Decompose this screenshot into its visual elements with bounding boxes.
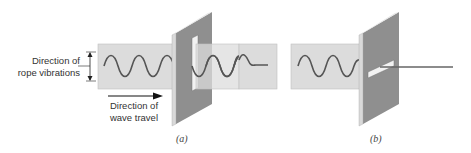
vibration-arrow-head-down	[88, 76, 93, 81]
wave-band-a-right-ext	[239, 44, 277, 89]
wave-band-a-left	[98, 44, 176, 89]
slit-plate-b-edge	[359, 33, 363, 126]
wave-travel-label: Direction of wave travel	[104, 100, 164, 124]
vibration-arrow-head-up	[88, 52, 93, 57]
rope-vibrations-line2: rope vibrations	[14, 67, 80, 79]
wave-travel-line1: Direction of	[104, 100, 164, 112]
wave-band-b	[291, 44, 363, 89]
rope-vibrations-line1: Direction of	[14, 55, 80, 67]
wave-band-a-right	[196, 44, 239, 89]
wave-travel-line2: wave travel	[104, 112, 164, 124]
travel-arrow-head	[153, 93, 163, 100]
caption-b: (b)	[370, 133, 382, 144]
caption-a: (a)	[176, 133, 188, 144]
slit-plate-a-edge	[172, 33, 176, 126]
rope-vibrations-label: Direction of rope vibrations	[14, 55, 80, 79]
